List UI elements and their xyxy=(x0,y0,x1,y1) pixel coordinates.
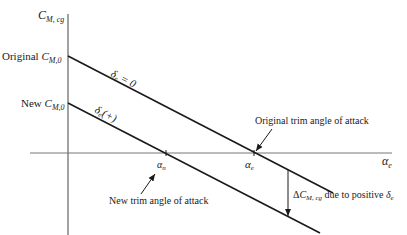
original-trim-label: Original trim angle of attack xyxy=(255,115,369,126)
alpha-e-label: αe xyxy=(245,158,254,172)
original-cm0-label: Original CM,0 xyxy=(2,50,61,65)
x-axis-label: αe xyxy=(382,154,392,170)
original-line-label: δe = 0 xyxy=(108,67,139,92)
new-trim-arrow xyxy=(141,174,155,194)
original-trim-arrow xyxy=(256,129,272,151)
new-cm0-label: New CM,0 xyxy=(21,97,65,112)
delta-cm-label: ΔCM, cg due to positive δe xyxy=(293,189,394,202)
y-axis-label: CM, cg xyxy=(38,8,64,24)
trim-diagram: CM, cg αe Original CM,0 New CM,0 δe = 0 … xyxy=(0,0,407,235)
new-trim-label: New trim angle of attack xyxy=(109,195,208,206)
alpha-n-label: αn xyxy=(157,159,166,172)
